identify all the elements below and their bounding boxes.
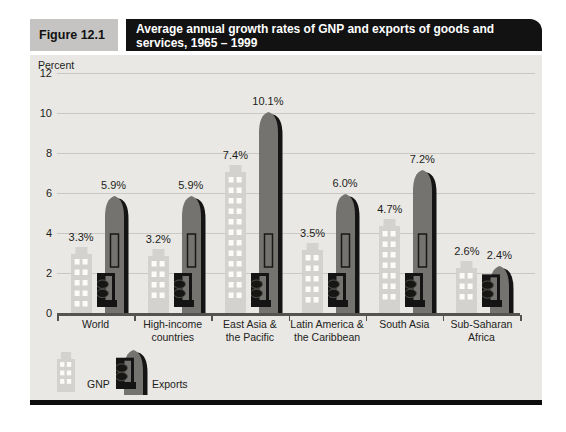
gnp-value-label: 7.4% bbox=[223, 149, 248, 161]
gnp-bar-sub-saharan-africa bbox=[456, 261, 477, 313]
gnp-value-label: 2.6% bbox=[454, 245, 479, 257]
gnp-value-label: 4.7% bbox=[377, 203, 402, 215]
y-tick-label: 10 bbox=[30, 107, 52, 120]
exports-bar-latin-america-the-caribbean bbox=[328, 193, 362, 313]
y-tick-label: 8 bbox=[30, 147, 52, 160]
gridline bbox=[57, 153, 535, 154]
exports-value-label: 5.9% bbox=[178, 179, 203, 191]
gnp-bar-world bbox=[71, 247, 92, 313]
exports-value-label: 5.9% bbox=[101, 179, 126, 191]
y-tick-label: 2 bbox=[30, 267, 52, 280]
y-tick-label: 12 bbox=[30, 67, 52, 80]
legend-exports-label: Exports bbox=[152, 378, 188, 390]
gnp-value-label: 3.5% bbox=[300, 227, 325, 239]
exports-bar-world bbox=[97, 195, 131, 313]
gnp-value-label: 3.3% bbox=[69, 231, 94, 243]
exports-value-label: 6.0% bbox=[333, 177, 358, 189]
building-icon bbox=[57, 352, 75, 392]
gridline bbox=[57, 73, 535, 74]
page: Figure 12.1 Average annual growth rates … bbox=[0, 0, 566, 432]
category-label-sub-saharan-africa: Sub-SaharanAfrica bbox=[426, 318, 536, 343]
exports-value-label: 2.4% bbox=[487, 249, 512, 261]
figure-title-line1: Average annual growth rates of GNP and e… bbox=[136, 22, 532, 36]
chart-plot-area: Percent 024681012 3.3%5.9%3.2%5.9%7.4%10… bbox=[30, 55, 542, 400]
exports-bar-east-asia-the-pacific bbox=[251, 111, 285, 313]
exports-value-label: 7.2% bbox=[410, 153, 435, 165]
figure-title: Average annual growth rates of GNP and e… bbox=[126, 19, 542, 51]
y-tick-label: 6 bbox=[30, 187, 52, 200]
exports-bar-sub-saharan-africa bbox=[482, 265, 516, 313]
figure-label: Figure 12.1 bbox=[30, 19, 118, 51]
gridline bbox=[57, 193, 535, 194]
gnp-bar-latin-america-the-caribbean bbox=[302, 243, 323, 313]
ship-icon bbox=[116, 349, 150, 395]
gnp-bar-south-asia bbox=[379, 219, 400, 313]
legend-gnp-label: GNP bbox=[87, 378, 110, 390]
exports-value-label: 10.1% bbox=[252, 95, 283, 107]
bottom-rule bbox=[30, 400, 542, 405]
exports-bar-high-income-countries bbox=[174, 195, 208, 313]
exports-bar-south-asia bbox=[405, 169, 439, 313]
gnp-bar-east-asia-the-pacific bbox=[225, 165, 246, 313]
gnp-value-label: 3.2% bbox=[146, 233, 171, 245]
gnp-bar-high-income-countries bbox=[148, 249, 169, 313]
figure-title-line2: services, 1965 – 1999 bbox=[136, 36, 532, 50]
gridline bbox=[57, 113, 535, 114]
y-tick-label: 4 bbox=[30, 227, 52, 240]
